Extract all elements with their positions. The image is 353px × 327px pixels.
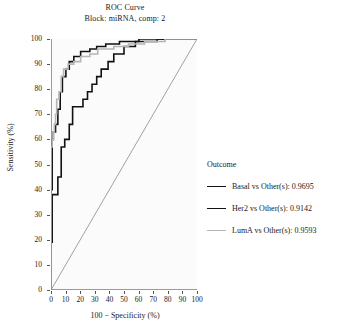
- x-tick-mark: [51, 291, 52, 294]
- legend-title: Outcome: [207, 160, 353, 170]
- chart-title-block: ROC Curve Block: miRNA, comp: 2: [40, 2, 210, 24]
- y-tick-mark: [47, 39, 50, 40]
- roc-curve-figure: ROC Curve Block: miRNA, comp: 2 01020304…: [0, 0, 353, 327]
- x-tick-mark: [124, 291, 125, 294]
- y-tick-label: 100: [18, 35, 42, 43]
- y-tick-mark: [47, 114, 50, 115]
- x-tick-mark: [109, 291, 110, 294]
- y-tick-mark: [47, 215, 50, 216]
- legend-line-swatch: [207, 208, 226, 209]
- x-tick-mark: [80, 291, 81, 294]
- legend-line-swatch: [207, 230, 226, 231]
- y-tick-mark: [47, 190, 50, 191]
- x-axis-label: 100 − Specificity (%): [40, 311, 210, 320]
- x-tick-mark: [197, 291, 198, 294]
- legend-item-label: Basal vs Other(s): 0.9695: [232, 182, 314, 191]
- legend: Outcome Basal vs Other(s): 0.9695Her2 vs…: [207, 160, 353, 241]
- legend-item: LumA vs Other(s): 0.9593: [207, 219, 353, 241]
- y-tick-label: 20: [18, 236, 42, 244]
- x-tick-label: 100: [186, 296, 208, 304]
- y-tick-label: 50: [18, 161, 42, 169]
- x-tick-mark: [139, 291, 140, 294]
- legend-item-label: Her2 vs Other(s): 0.9142: [232, 204, 312, 213]
- y-tick-mark: [47, 240, 50, 241]
- y-tick-label: 0: [18, 286, 42, 294]
- x-tick-mark: [66, 291, 67, 294]
- y-tick-mark: [47, 290, 50, 291]
- y-tick-label: 80: [18, 85, 42, 93]
- y-axis-label: Sensitivity (%): [6, 100, 15, 196]
- y-tick-mark: [47, 165, 50, 166]
- legend-item: Her2 vs Other(s): 0.9142: [207, 197, 353, 219]
- roc-curves-svg: [51, 39, 197, 290]
- y-tick-label: 60: [18, 135, 42, 143]
- y-tick-mark: [47, 89, 50, 90]
- x-tick-mark: [168, 291, 169, 294]
- x-tick-mark: [153, 291, 154, 294]
- x-tick-mark: [95, 291, 96, 294]
- y-tick-mark: [47, 265, 50, 266]
- chart-subtitle: Block: miRNA, comp: 2: [40, 13, 210, 24]
- legend-item-label: LumA vs Other(s): 0.9593: [232, 226, 316, 235]
- y-tick-label: 70: [18, 110, 42, 118]
- legend-item: Basal vs Other(s): 0.9695: [207, 175, 353, 197]
- y-tick-mark: [47, 64, 50, 65]
- y-tick-mark: [47, 139, 50, 140]
- y-tick-label: 40: [18, 186, 42, 194]
- y-tick-label: 10: [18, 261, 42, 269]
- y-tick-label: 90: [18, 60, 42, 68]
- legend-line-swatch: [207, 186, 226, 187]
- chart-title: ROC Curve: [40, 2, 210, 13]
- y-tick-label: 30: [18, 211, 42, 219]
- plot-area: [51, 39, 197, 290]
- x-tick-mark: [182, 291, 183, 294]
- legend-entries: Basal vs Other(s): 0.9695Her2 vs Other(s…: [207, 175, 353, 241]
